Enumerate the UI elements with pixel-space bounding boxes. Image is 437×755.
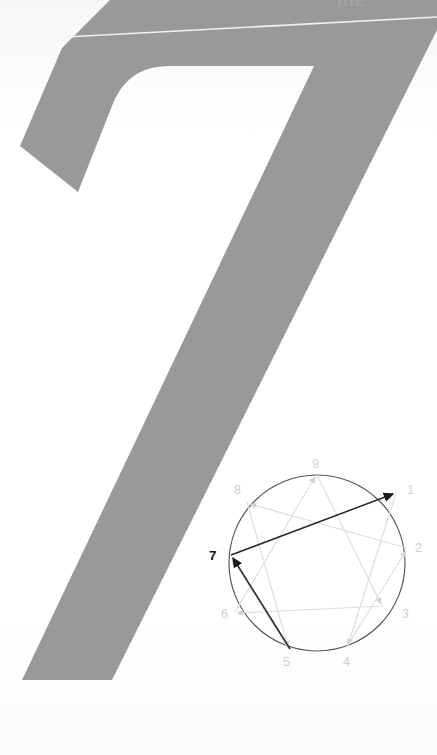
enneagram-hexad <box>231 493 407 650</box>
cropped-header-text: IIIE <box>337 0 365 10</box>
enneagram-label-9: 9 <box>312 457 319 471</box>
enneagram-label-7: 7 <box>209 548 217 563</box>
page-root: IIIE <box>0 0 437 755</box>
enneagram-labels: 1 2 3 4 5 6 7 8 9 <box>209 457 422 669</box>
enneagram-label-1: 1 <box>407 483 414 497</box>
enneagram-label-4: 4 <box>343 655 350 669</box>
enneagram-label-3: 3 <box>402 607 409 621</box>
enneagram-svg: 1 2 3 4 5 6 7 8 9 <box>205 448 427 676</box>
line-7-to-1 <box>231 494 393 555</box>
enneagram-circle <box>229 475 405 651</box>
enneagram-label-8: 8 <box>234 483 241 497</box>
line-5-to-7 <box>233 558 290 649</box>
enneagram-label-6: 6 <box>221 607 228 621</box>
enneagram-label-5: 5 <box>283 655 290 669</box>
enneagram-label-2: 2 <box>415 541 422 555</box>
enneagram-figure: 1 2 3 4 5 6 7 8 9 <box>205 448 427 676</box>
enneagram-triangle <box>235 475 383 613</box>
